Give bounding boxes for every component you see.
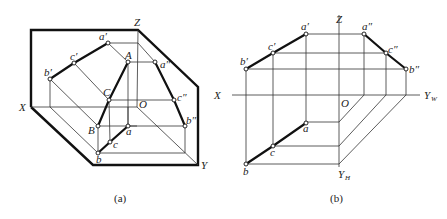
- label-B: B: [88, 124, 95, 136]
- label-X: X: [213, 89, 222, 101]
- proj-line: [109, 100, 110, 142]
- label-Z: Z: [134, 16, 141, 28]
- point-c: [108, 140, 112, 144]
- transfer-line: [339, 95, 406, 164]
- label-b: b: [243, 165, 249, 177]
- line-ab-prime: [50, 43, 108, 79]
- label-c-prime: c′: [268, 40, 276, 52]
- label-a: a: [126, 125, 132, 137]
- point-B: [96, 124, 100, 128]
- point-c-dprime: [172, 98, 176, 102]
- label-a: a: [303, 122, 309, 134]
- figure-a-pictorial: Z X Y O a′ c′ b′ A C B a c b a″ c″ b″ (a…: [18, 16, 209, 205]
- point-a-dprime: [153, 60, 157, 64]
- caption-b: (b): [330, 192, 343, 205]
- point-a-dprime: [362, 32, 366, 36]
- svg-text:W: W: [431, 95, 438, 103]
- label-a-prime: a′: [99, 30, 108, 42]
- svg-text:H: H: [344, 174, 351, 182]
- point-a-prime: [304, 32, 308, 36]
- label-a-dprime: a″: [160, 58, 171, 70]
- point-C: [107, 98, 111, 102]
- label-c-dprime: c″: [388, 43, 398, 55]
- label-c: c: [270, 146, 275, 158]
- proj-line: [50, 79, 98, 126]
- label-a-prime: a′: [301, 20, 310, 32]
- label-b-dprime: b″: [186, 114, 197, 126]
- label-b: b: [96, 153, 102, 165]
- label-C: C: [103, 86, 111, 98]
- line-ab-top: [246, 123, 306, 164]
- label-b-prime: b′: [44, 66, 53, 78]
- proj-line: [138, 43, 155, 62]
- label-A: A: [124, 49, 132, 61]
- figure-b-orthographic: Z X O Y W Y H a′ c′ b′ a″ c″ b″ a c b (b…: [213, 13, 438, 205]
- label-a-dprime: a″: [362, 20, 373, 32]
- label-O: O: [341, 97, 349, 109]
- label-c-dprime: c″: [177, 91, 187, 103]
- label-Yh: Y H: [338, 168, 351, 182]
- label-X: X: [18, 101, 27, 113]
- label-Z: Z: [336, 13, 343, 25]
- line-ab-prime: [246, 34, 306, 69]
- caption-a: (a): [114, 192, 127, 205]
- label-c-prime: c′: [70, 50, 78, 62]
- point-b-dprime: [404, 67, 408, 71]
- label-b-dprime: b″: [409, 63, 420, 75]
- axis-z: [137, 30, 138, 107]
- label-c: c: [113, 138, 118, 150]
- label-Yw: Y W: [424, 89, 438, 103]
- label-O: O: [139, 98, 147, 110]
- label-Y: Y: [201, 159, 209, 171]
- point-b-prime: [244, 67, 248, 71]
- label-b-prime: b′: [240, 55, 249, 67]
